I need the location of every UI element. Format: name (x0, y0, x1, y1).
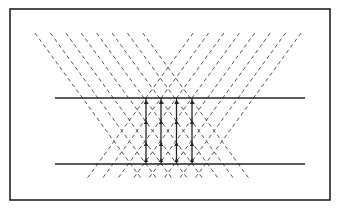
dashed-line-slash (134, 33, 240, 178)
dashed-line-slash (118, 33, 224, 178)
dashed-line-backslash (35, 33, 141, 178)
dashed-line-backslash (50, 33, 156, 178)
dashed-line-backslash (66, 33, 172, 178)
dashed-line-backslash (97, 33, 203, 178)
dashed-line-slash (195, 33, 301, 178)
dashed-line-slash (164, 33, 270, 178)
dashed-line-slash (103, 33, 209, 178)
frame-border (10, 9, 330, 200)
dashed-line-slash (149, 33, 255, 178)
dashed-line-slash (87, 33, 193, 178)
dashed-line-families (35, 33, 301, 178)
dashed-line-backslash (112, 33, 218, 178)
dashed-line-slash (180, 33, 286, 178)
wave-interference-diagram (0, 0, 339, 208)
dashed-line-backslash (81, 33, 187, 178)
dashed-line-backslash (127, 33, 233, 178)
horizontal-solid-lines (55, 98, 305, 164)
dashed-line-backslash (143, 33, 249, 178)
